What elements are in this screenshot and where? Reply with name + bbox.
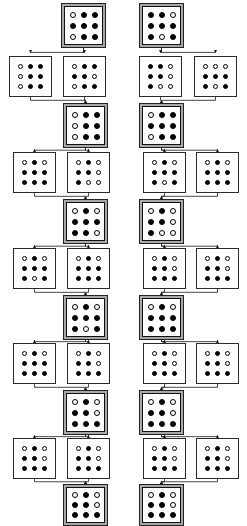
state-node-highlighted[interactable] [63,390,108,435]
dot-grid [69,301,102,334]
dot-filled-icon [72,502,78,508]
dot-filled-icon [42,371,47,376]
state-node[interactable] [194,56,237,97]
state-node-highlighted[interactable] [139,103,184,148]
dot-cell [170,168,180,178]
dot-filled-icon [83,421,89,427]
dot-cell [156,323,167,334]
dot-cell [94,454,104,464]
state-node[interactable] [9,56,52,97]
dot-cell [212,349,222,359]
state-node-highlighted[interactable] [139,199,184,244]
dot-cell [170,177,180,187]
dot-filled-icon [162,160,167,165]
dot-cell [29,168,39,178]
dot-cell [40,254,50,264]
dot-cell [145,81,155,91]
dot-open-icon [172,456,177,461]
dot-open-icon [152,446,157,451]
state-node-highlighted[interactable] [61,3,106,48]
dot-filled-icon [152,466,157,471]
tree-edge [86,289,89,292]
dot-cell [29,264,39,274]
state-node[interactable] [139,56,182,97]
dot-grid [73,349,104,378]
state-node-highlighted[interactable] [139,484,184,526]
state-node[interactable] [63,56,106,97]
tree-edge [31,97,86,100]
tree-edge [35,148,86,150]
state-node[interactable] [67,152,110,193]
dot-cell [156,120,167,131]
dot-cell [69,205,80,216]
dot-cell [149,368,159,378]
dot-cell [25,62,35,72]
tree-edge [31,48,84,53]
dot-filled-icon [38,84,43,89]
state-node-highlighted[interactable] [139,3,184,48]
state-node[interactable] [143,248,186,289]
state-node-highlighted[interactable] [63,199,108,244]
dot-filled-icon [215,276,220,281]
tree-edge [162,244,218,246]
state-node[interactable] [67,438,110,479]
tree-edge [162,48,216,53]
state-node[interactable] [196,152,239,193]
state-node-highlighted[interactable] [63,103,108,148]
dot-open-icon [148,492,154,498]
dot-filled-icon [148,64,153,69]
state-node-highlighted[interactable] [63,484,108,526]
dot-filled-icon [83,502,89,508]
state-node[interactable] [13,343,56,384]
dot-cell [212,444,222,454]
dot-cell [145,9,156,20]
dot-filled-icon [215,266,220,271]
dot-filled-icon [162,266,167,271]
dot-filled-icon [94,326,100,332]
state-node[interactable] [13,248,56,289]
dot-filled-icon [22,170,27,175]
state-node-highlighted[interactable] [139,390,184,435]
dot-filled-icon [94,421,100,427]
dot-filled-icon [83,315,89,321]
dot-cell [167,31,178,42]
dot-filled-icon [96,371,101,376]
dot-open-icon [170,410,176,416]
dot-open-icon [72,64,77,69]
dot-cell [145,216,156,227]
state-node[interactable] [143,438,186,479]
dot-cell [83,273,93,283]
dot-filled-icon [28,64,33,69]
state-node[interactable] [67,248,110,289]
dot-cell [166,72,176,82]
state-node[interactable] [196,438,239,479]
state-node[interactable] [196,343,239,384]
state-node[interactable] [196,248,239,289]
dot-grid [145,490,178,520]
state-node[interactable] [143,152,186,193]
dot-open-icon [148,399,154,405]
dot-open-icon [170,12,176,18]
dot-cell [83,349,93,359]
dot-cell [80,216,91,227]
dot-filled-icon [72,219,78,225]
state-node[interactable] [13,438,56,479]
dot-filled-icon [28,74,33,79]
state-node[interactable] [13,152,56,193]
dot-grid [19,349,50,378]
dot-cell [202,368,212,378]
state-node-highlighted[interactable] [63,295,108,340]
dot-cell [91,490,102,500]
dot-cell [202,273,212,283]
dot-cell [159,359,169,369]
state-node[interactable] [67,343,110,384]
tree-edge [162,435,218,437]
dot-filled-icon [159,219,165,225]
dot-cell [94,177,104,187]
tree-edge [162,193,165,196]
dot-cell [91,109,102,120]
dot-cell [210,72,220,82]
state-node-highlighted[interactable] [139,295,184,340]
dot-filled-icon [215,160,220,165]
state-node[interactable] [143,343,186,384]
